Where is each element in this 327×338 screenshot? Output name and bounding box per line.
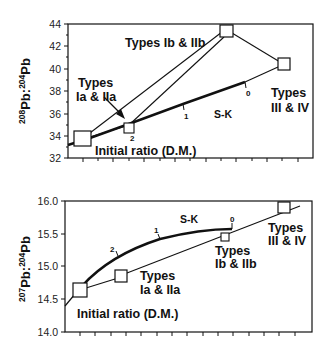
marker-sk-2 bbox=[124, 123, 134, 133]
line-ib-to-iii bbox=[232, 33, 280, 62]
y-tick-label: 36 bbox=[49, 108, 61, 120]
label-types-ia-iia-2: Ia & IIa bbox=[140, 283, 181, 297]
label-types-iii-iv-2: III & IV bbox=[271, 101, 310, 115]
label-sk: S-K bbox=[180, 213, 199, 225]
label-types-ia-iia-2: Ia & IIa bbox=[76, 90, 117, 104]
marker-iii-iv bbox=[278, 202, 290, 213]
line-initial-to-ia bbox=[86, 279, 115, 288]
label-sk: S-K bbox=[214, 108, 233, 120]
sk-tick-label-0: 0 bbox=[246, 89, 251, 98]
y-tick-label: 15.5 bbox=[38, 228, 59, 240]
sk-tick-0 bbox=[245, 82, 246, 88]
label-initial-ratio: Initial ratio (D.M.) bbox=[95, 144, 196, 158]
label-types-iii-iv: Types bbox=[271, 86, 306, 100]
label-types-ib-iib-2: Ib & IIb bbox=[215, 257, 257, 271]
sk-tick-label-2: 2 bbox=[110, 245, 115, 254]
y-tick-label: 14.0 bbox=[38, 326, 59, 338]
sk-tick-label-0: 0 bbox=[230, 215, 235, 224]
line-2-to-ib bbox=[129, 37, 224, 125]
top-y-axis-label: 208Pb:204Pb bbox=[17, 58, 33, 124]
y-tick-label: 40 bbox=[49, 63, 61, 75]
bottom-chart: 16.0 15.5 15.0 14.5 14.0 207Pb:204Pb 2 1… bbox=[17, 195, 312, 338]
bottom-x-ticks bbox=[80, 332, 295, 336]
marker-ib-iib bbox=[221, 233, 229, 241]
sk-tick-2 bbox=[116, 251, 118, 256]
label-initial-ratio: Initial ratio (D.M.) bbox=[77, 307, 178, 321]
figure: 44 42 40 38 36 34 32 208Pb:204Pb 1 0 2 bbox=[0, 0, 327, 338]
label-types-ib-iib: Types bbox=[215, 244, 250, 258]
sk-tick-label-2: 2 bbox=[130, 134, 135, 143]
label-types-ia-iia: Types bbox=[140, 269, 175, 283]
top-x-ticks bbox=[83, 158, 298, 162]
label-types-iii-iv: Types bbox=[268, 221, 303, 235]
marker-initial bbox=[74, 131, 91, 146]
y-tick-label: 16.0 bbox=[38, 195, 59, 207]
label-types-ia-iia: Types bbox=[78, 76, 113, 90]
marker-iii-iv bbox=[278, 58, 290, 70]
y-tick-label: 38 bbox=[49, 85, 61, 97]
label-types-iii-iv-2: III & IV bbox=[268, 234, 307, 248]
sk-tick-label-1: 1 bbox=[184, 112, 189, 121]
y-tick-label: 14.5 bbox=[38, 293, 59, 305]
marker-initial bbox=[73, 283, 87, 297]
bottom-y-tick-labels: 16.0 15.5 15.0 14.5 14.0 bbox=[38, 195, 59, 338]
y-tick-label: 44 bbox=[49, 18, 61, 30]
marker-ia-iia bbox=[115, 270, 127, 282]
label-types-ib-iib: Types Ib & IIb bbox=[125, 36, 206, 50]
top-y-tick-labels: 44 42 40 38 36 34 32 bbox=[49, 18, 61, 164]
bottom-y-axis-label: 207Pb:204Pb bbox=[17, 236, 33, 302]
y-tick-label: 42 bbox=[49, 40, 61, 52]
marker-ib-iib bbox=[220, 25, 233, 37]
line-sk-to-iii bbox=[245, 67, 278, 82]
y-tick-label: 15.0 bbox=[38, 260, 59, 272]
top-chart: 44 42 40 38 36 34 32 208Pb:204Pb 1 0 2 bbox=[17, 18, 313, 164]
sk-tick-label-1: 1 bbox=[154, 226, 159, 235]
y-tick-label: 34 bbox=[49, 130, 61, 142]
y-tick-label: 32 bbox=[49, 152, 61, 164]
